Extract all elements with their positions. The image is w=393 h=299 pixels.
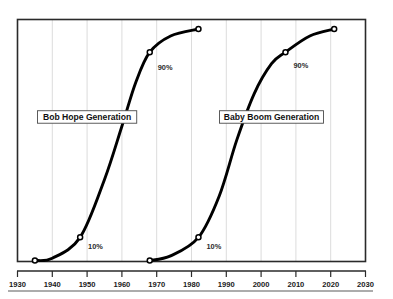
x-tick-label-2010: 2010 <box>287 280 304 289</box>
x-tick-label-1930: 1930 <box>9 280 26 289</box>
data-marker-bob-hope-2 <box>147 50 152 55</box>
x-tick-label-1980: 1980 <box>183 280 200 289</box>
x-tick-label-1970: 1970 <box>148 280 165 289</box>
data-marker-bob-hope-1 <box>78 235 83 240</box>
x-tick-label-1950: 1950 <box>79 280 96 289</box>
x-tick-label-1960: 1960 <box>113 280 130 289</box>
x-tick-label-2020: 2020 <box>322 280 339 289</box>
data-marker-baby-boom-2 <box>283 50 288 55</box>
percent-annotation-5: 90% <box>293 61 308 70</box>
annotation-label-baby-boom: Baby Boom Generation <box>224 112 320 122</box>
chart-container: 1930194019501960197019801990200020102020… <box>0 0 393 299</box>
x-tick-label-1940: 1940 <box>44 280 61 289</box>
percent-annotation-4: 10% <box>206 242 221 251</box>
x-tick-label-2000: 2000 <box>253 280 270 289</box>
generation-adoption-chart: 1930194019501960197019801990200020102020… <box>0 0 393 299</box>
data-marker-baby-boom-3 <box>332 27 337 32</box>
percent-annotation-2: 10% <box>88 242 103 251</box>
annotation-label-bob-hope: Bob Hope Generation <box>43 112 131 122</box>
x-tick-label-2030: 2030 <box>357 280 374 289</box>
data-marker-baby-boom-0 <box>147 258 152 263</box>
data-marker-bob-hope-0 <box>32 258 37 263</box>
percent-annotation-3: 90% <box>158 63 173 72</box>
x-tick-label-1990: 1990 <box>218 280 235 289</box>
data-marker-baby-boom-1 <box>196 235 201 240</box>
data-marker-bob-hope-3 <box>196 27 201 32</box>
